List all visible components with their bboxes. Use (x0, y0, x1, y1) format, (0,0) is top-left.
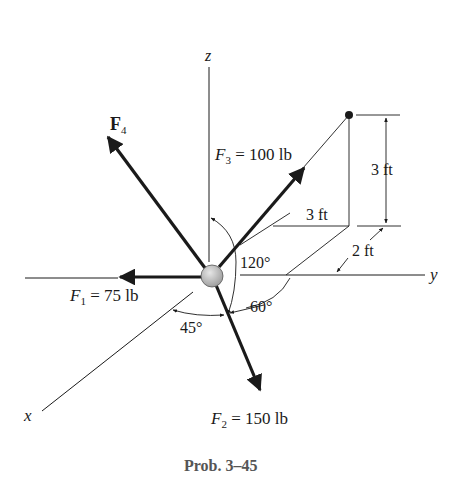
f3-end-point (345, 111, 353, 119)
depth-dimension-label: 3 ft (306, 206, 328, 223)
offset-dim-arrow-a (337, 258, 348, 272)
x-axis-label: x (23, 406, 32, 425)
force-vectors (108, 137, 304, 390)
f3-line-of-action (303, 115, 349, 168)
f1-label: F1 = 75 lb (69, 286, 138, 307)
offset-dim-arrow-b (370, 228, 383, 240)
arc-45 (173, 310, 224, 315)
y-axis-label: y (428, 265, 438, 284)
f3-geometry (240, 115, 401, 275)
figure-caption: Prob. 3–45 (184, 457, 257, 474)
f2-label: F2 = 150 lb (210, 409, 288, 430)
offset-diagonal (286, 226, 349, 275)
offset-dimension-label: 2 ft (352, 242, 374, 259)
x-axis (42, 292, 193, 411)
axes (25, 67, 425, 411)
angle-120-label: 120° (240, 254, 270, 271)
particle (201, 265, 223, 287)
f3-label: F3 = 100 lb (214, 145, 292, 166)
f4-label: F4 (110, 114, 127, 136)
height-dimension-label: 3 ft (371, 161, 393, 178)
angle-60-label: 60° (250, 298, 272, 315)
angle-45-label: 45° (180, 319, 202, 336)
f3-vector (219, 168, 304, 267)
depth-diagonal (240, 213, 290, 245)
z-axis-label: z (204, 47, 212, 64)
f4-vector (108, 137, 205, 268)
angle-arcs (173, 218, 290, 315)
force-diagram: z y x F4 F3 = 100 lb F1 = 75 lb (0, 0, 466, 483)
